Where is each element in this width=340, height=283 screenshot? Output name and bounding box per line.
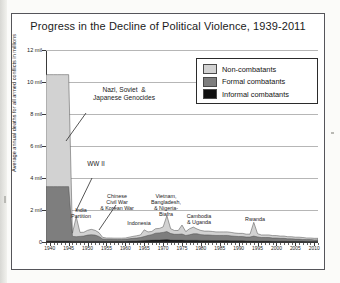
- x-axis-tick-label: 1990: [233, 246, 244, 251]
- x-axis-tick-mark-minor: [99, 243, 100, 245]
- x-axis-tick-mark-minor: [57, 243, 58, 245]
- x-axis-tick-mark-minor: [227, 243, 228, 245]
- x-axis-tick-mark-minor: [310, 243, 311, 245]
- scan-speck: [4, 196, 6, 203]
- x-axis-tick-mark-minor: [224, 243, 225, 245]
- x-axis-tick-mark-minor: [190, 243, 191, 245]
- x-axis-tick-mark-minor: [178, 243, 179, 245]
- x-axis-tick-mark-minor: [103, 243, 104, 245]
- x-axis-tick-label: 2010: [309, 246, 320, 251]
- legend-label: Non-combatants: [222, 65, 276, 74]
- x-axis-tick-mark-minor: [261, 243, 262, 245]
- x-axis-tick-mark-minor: [65, 243, 66, 245]
- x-axis-tick-mark-minor: [292, 243, 293, 245]
- x-axis-tick-mark-minor: [269, 243, 270, 245]
- x-axis-tick-label: 1945: [63, 246, 74, 251]
- x-axis-tick-label: 1995: [252, 246, 263, 251]
- y-axis-tick-label: 6 mil: [30, 143, 42, 149]
- y-axis-tick-label: 10 mil: [27, 79, 42, 85]
- x-axis-tick-mark-minor: [76, 243, 77, 245]
- chart-legend: Non-combatantsFormal combatantsInformal …: [196, 58, 318, 104]
- x-axis-tick-mark-minor: [140, 243, 141, 245]
- x-axis-tick-label: 1940: [44, 246, 55, 251]
- x-axis-tick-mark-minor: [114, 243, 115, 245]
- y-axis-tick-label: 4 mil: [30, 175, 42, 181]
- x-axis-tick-mark-minor: [46, 243, 47, 245]
- x-axis-tick-mark-minor: [235, 243, 236, 245]
- legend-item[interactable]: Informal combatants: [203, 88, 317, 101]
- x-axis-tick-mark-minor: [242, 243, 243, 245]
- x-axis-tick-mark-minor: [84, 243, 85, 245]
- x-axis-tick-mark-minor: [137, 243, 138, 245]
- x-axis-tick-label: 1965: [139, 246, 150, 251]
- x-axis-tick-mark-minor: [122, 243, 123, 245]
- legend-item[interactable]: Non-combatants: [203, 63, 317, 76]
- x-axis-tick-label: 1975: [177, 246, 188, 251]
- x-axis-tick-mark-minor: [197, 243, 198, 245]
- annotation-indonesia: Indonesia: [122, 220, 156, 226]
- annotation-cambodia-uganda: Cambodia & Uganda: [179, 213, 219, 225]
- legend-swatch: [203, 77, 217, 87]
- x-axis-tick-mark-minor: [193, 243, 194, 245]
- x-axis-tick-mark-minor: [156, 243, 157, 245]
- x-axis-tick-mark-minor: [129, 243, 130, 245]
- x-axis-tick-mark-minor: [205, 243, 206, 245]
- legend-label: Formal combatants: [222, 77, 285, 86]
- x-axis-tick-label: 1955: [101, 246, 112, 251]
- x-axis-tick-mark-minor: [288, 243, 289, 245]
- y-axis-tick-label: 8 mil: [30, 111, 42, 117]
- y-axis-tick-label: 12 mil: [27, 47, 42, 53]
- scan-edge-shadow: [0, 0, 7, 283]
- x-axis-tick-mark-minor: [307, 243, 308, 245]
- page-title: Progress in the Decline of Political Vio…: [11, 20, 325, 32]
- x-axis-tick-mark-minor: [299, 243, 300, 245]
- x-axis-tick-mark-minor: [250, 243, 251, 245]
- x-axis-tick-label: 1960: [120, 246, 131, 251]
- x-axis-tick-mark-minor: [118, 243, 119, 245]
- annotation-ww2: WW II: [80, 160, 112, 167]
- x-axis-tick-label: 2005: [290, 246, 301, 251]
- x-axis-tick-mark-minor: [265, 243, 266, 245]
- x-axis-tick-mark-minor: [72, 243, 73, 245]
- x-axis-tick-mark-minor: [167, 243, 168, 245]
- x-axis-tick-mark-minor: [148, 243, 149, 245]
- x-axis-tick-mark-minor: [80, 243, 81, 245]
- x-axis-tick-label: 2000: [271, 246, 282, 251]
- legend-swatch: [203, 64, 217, 74]
- x-axis-tick-mark-minor: [171, 243, 172, 245]
- scan-speck: [331, 132, 334, 134]
- x-axis-tick-mark-minor: [254, 243, 255, 245]
- x-axis-tick-mark-minor: [303, 243, 304, 245]
- x-axis-tick-label: 1950: [82, 246, 93, 251]
- x-axis-tick-mark-minor: [61, 243, 62, 245]
- x-axis-tick-mark-minor: [284, 243, 285, 245]
- x-axis-tick-mark-minor: [91, 243, 92, 245]
- x-axis-tick-mark-minor: [216, 243, 217, 245]
- x-axis-tick-mark-minor: [231, 243, 232, 245]
- x-axis-tick-mark-minor: [273, 243, 274, 245]
- x-axis-tick-mark-minor: [280, 243, 281, 245]
- legend-label: Informal combatants: [222, 90, 289, 99]
- x-axis-tick-label: 1985: [214, 246, 225, 251]
- y-axis-tick-label: 2 mil: [30, 207, 42, 213]
- x-axis-tick-mark-minor: [159, 243, 160, 245]
- x-axis-tick-mark-minor: [212, 243, 213, 245]
- x-axis-tick-mark-minor: [174, 243, 175, 245]
- x-axis-tick-mark-minor: [95, 243, 96, 245]
- annotation-nazi-soviet-japanese-genocides: Nazi, Soviet & Japanese Genocides: [82, 86, 166, 101]
- x-axis-tick-mark-minor: [318, 243, 319, 245]
- x-axis-tick-mark-minor: [186, 243, 187, 245]
- x-axis-tick-mark-minor: [110, 243, 111, 245]
- annotation-india-partition: India Partition: [68, 207, 94, 219]
- annotation-rwanda: Rwanda: [240, 216, 270, 222]
- x-axis-tick-mark-minor: [152, 243, 153, 245]
- x-axis-tick-mark-minor: [133, 243, 134, 245]
- annotation-chinese-civil-war-korean-war: Chinese Civil War & Korean War: [96, 193, 138, 211]
- x-axis-tick-label: 1970: [158, 246, 169, 251]
- legend-swatch: [203, 89, 217, 99]
- x-axis-tick-mark-minor: [208, 243, 209, 245]
- x-axis-tick-label: 1980: [195, 246, 206, 251]
- x-axis-tick-mark-minor: [54, 243, 55, 245]
- legend-item[interactable]: Formal combatants: [203, 76, 317, 89]
- x-axis-tick-mark-minor: [246, 243, 247, 245]
